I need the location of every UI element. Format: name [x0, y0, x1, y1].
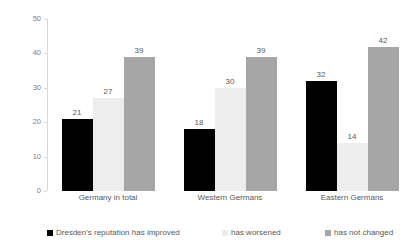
bar-value-label: 39 — [246, 47, 277, 55]
bar-not-changed[interactable] — [246, 57, 277, 191]
bar-groups: 21 27 39 Germany in total — [47, 19, 413, 191]
bar-improved[interactable] — [62, 119, 93, 191]
bar-improved[interactable] — [184, 129, 215, 191]
legend-label: has not changed — [334, 228, 393, 237]
bar-slot: 14 — [337, 19, 368, 191]
bar-not-changed[interactable] — [124, 57, 155, 191]
legend-item-improved[interactable]: Dresden's reputation has improved — [47, 228, 180, 237]
bar-group-western-germans: 18 30 39 Western Germans — [169, 19, 291, 191]
bar-group-eastern-germans: 32 14 42 Eastern Germans — [291, 19, 413, 191]
bars: 21 27 39 — [47, 19, 169, 191]
bar-worsened[interactable] — [337, 143, 368, 191]
bar-value-label: 39 — [124, 47, 155, 55]
bar-not-changed[interactable] — [368, 47, 399, 191]
legend-label: has worsened — [231, 228, 281, 237]
bar-group-germany-in-total: 21 27 39 Germany in total — [47, 19, 169, 191]
bar-value-label: 42 — [368, 37, 399, 45]
bars: 18 30 39 — [169, 19, 291, 191]
category-label: Germany in total — [47, 193, 169, 202]
y-tick-mark — [44, 191, 47, 192]
y-tick-label: 20 — [33, 118, 41, 126]
legend-item-worsened[interactable]: has worsened — [222, 228, 281, 237]
bar-value-label: 18 — [184, 119, 215, 127]
category-label: Western Germans — [169, 193, 291, 202]
bars: 32 14 42 — [291, 19, 413, 191]
bar-value-label: 32 — [306, 71, 337, 79]
bar-slot: 39 — [246, 19, 277, 191]
bar-value-label: 14 — [337, 133, 368, 141]
bar-slot: 27 — [93, 19, 124, 191]
bar-value-label: 27 — [93, 88, 124, 96]
legend-swatch-icon — [325, 230, 331, 236]
plot-area: 0 10 20 30 40 50 21 — [47, 19, 413, 191]
bar-value-label: 30 — [215, 78, 246, 86]
category-label: Eastern Germans — [291, 193, 413, 202]
legend-swatch-icon — [47, 230, 53, 236]
bar-value-label: 21 — [62, 109, 93, 117]
bar-improved[interactable] — [306, 81, 337, 191]
bar-slot: 30 — [215, 19, 246, 191]
y-tick-label: 10 — [33, 153, 41, 161]
bar-slot: 39 — [124, 19, 155, 191]
legend-item-not-changed[interactable]: has not changed — [325, 228, 393, 237]
legend-swatch-icon — [222, 230, 228, 236]
bar-slot: 42 — [368, 19, 399, 191]
grouped-bar-chart: 0 10 20 30 40 50 21 — [0, 0, 417, 250]
y-tick-label: 30 — [33, 84, 41, 92]
bar-worsened[interactable] — [215, 88, 246, 191]
bar-slot: 21 — [62, 19, 93, 191]
bar-worsened[interactable] — [93, 98, 124, 191]
bar-slot: 32 — [306, 19, 337, 191]
chart-legend: Dresden's reputation has improved has wo… — [47, 228, 413, 242]
y-tick-label: 0 — [37, 187, 41, 195]
bar-slot: 18 — [184, 19, 215, 191]
y-tick-label: 40 — [33, 50, 41, 58]
y-tick-label: 50 — [33, 15, 41, 23]
legend-label: Dresden's reputation has improved — [56, 228, 180, 237]
